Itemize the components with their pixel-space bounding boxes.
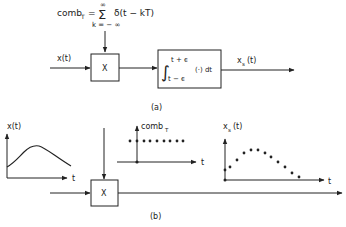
part-b: x(t) t X comb T t (7, 122, 342, 221)
signal-curve (7, 146, 71, 167)
integral-upper-limit: t + ϵ (171, 56, 188, 64)
output-arg: (t) (247, 56, 256, 65)
delta-term: δ(t − kT) (114, 8, 154, 18)
comb-impulses (129, 140, 185, 143)
sampled-plot-arg: (t) (233, 122, 242, 131)
integrand: (·) dt (195, 66, 212, 74)
comb-t-label: t (201, 158, 204, 167)
multiplier-symbol-b: X (101, 189, 107, 198)
comb-formula: comb T = ∞ Σ k = − ∞ δ(t − kT) (57, 1, 154, 29)
comb-label: comb (57, 8, 82, 18)
signal-plot: x(t) t (7, 122, 75, 183)
comb-subscript: T (80, 13, 85, 20)
multiplier-symbol: X (102, 64, 108, 73)
comb-plot-label: comb (141, 122, 163, 131)
comb-plot: comb T t (117, 122, 204, 167)
diagram-canvas: comb T = ∞ Σ k = − ∞ δ(t − kT) x(t) X ∫ … (0, 0, 346, 227)
sampled-plot: x s (t) t (223, 122, 331, 186)
signal-t-label: t (72, 174, 75, 183)
comb-origin-dot (135, 160, 138, 163)
comb-plot-subscript: T (164, 127, 169, 133)
sampled-t-label: t (328, 177, 331, 186)
input-label: x(t) (57, 54, 71, 63)
caption-b: (b) (150, 212, 161, 221)
sampled-plot-subscript: s (228, 127, 231, 133)
sampling-diagram: comb T = ∞ Σ k = − ∞ δ(t − kT) x(t) X ∫ … (0, 0, 346, 227)
integral-lower-limit: t − ϵ (168, 75, 185, 83)
equals-sign: = (88, 8, 96, 18)
caption-a: (a) (151, 103, 162, 112)
part-a: comb T = ∞ Σ k = − ∞ δ(t − kT) x(t) X ∫ … (50, 1, 294, 112)
output-subscript: s (242, 61, 245, 67)
sum-lower-limit: k = − ∞ (92, 21, 120, 29)
signal-plot-label: x(t) (7, 122, 21, 131)
sampled-points (224, 149, 301, 182)
sum-symbol: Σ (98, 7, 106, 22)
